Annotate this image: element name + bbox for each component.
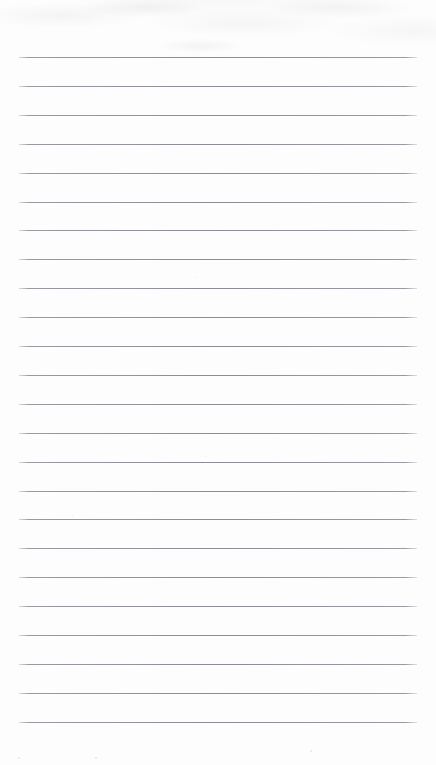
rule-line (19, 635, 417, 636)
ruled-lines-group (0, 0, 436, 765)
scanned-page (0, 0, 436, 765)
rule-line (19, 664, 417, 665)
rule-line (19, 288, 417, 289)
rule-line (19, 57, 417, 58)
rule-line (19, 693, 417, 694)
rule-line (19, 722, 417, 723)
rule-line (19, 259, 417, 260)
rule-line (19, 173, 417, 174)
rule-line (19, 462, 417, 463)
rule-line (19, 606, 417, 607)
rule-line (19, 144, 417, 145)
rule-line (19, 86, 417, 87)
rule-line (19, 346, 417, 347)
rule-line (19, 317, 417, 318)
rule-line (19, 375, 417, 376)
rule-line (19, 577, 417, 578)
rule-line (19, 433, 417, 434)
rule-line (19, 115, 417, 116)
rule-line (19, 491, 417, 492)
rule-line (19, 202, 417, 203)
rule-line (19, 519, 417, 520)
rule-line (19, 404, 417, 405)
rule-line (19, 548, 417, 549)
rule-line (19, 230, 417, 231)
